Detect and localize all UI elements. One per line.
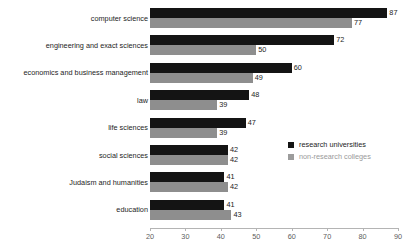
bar-research-universities — [150, 63, 292, 73]
bar-value-label: 42 — [230, 155, 238, 165]
legend-label-research-universities: research universities — [299, 140, 366, 150]
category-label: education — [2, 205, 148, 214]
bar-group: computer science8777 — [0, 8, 406, 28]
bar-value-label: 39 — [219, 100, 227, 110]
bar-non-research-colleges — [150, 100, 217, 110]
bar-non-research-colleges — [150, 45, 256, 55]
bar-research-universities — [150, 172, 224, 182]
category-label: computer science — [2, 14, 148, 23]
bar-research-universities — [150, 200, 224, 210]
x-tick-mark — [256, 228, 257, 231]
x-tick-label: 80 — [359, 232, 367, 241]
bar-non-research-colleges — [150, 18, 352, 28]
bar-research-universities — [150, 90, 249, 100]
bar-value-label: 41 — [226, 200, 234, 210]
bar-value-label: 77 — [354, 18, 362, 28]
legend-swatch-icon-research-universities — [288, 142, 294, 148]
category-label: law — [2, 96, 148, 105]
x-axis-line — [150, 228, 398, 229]
x-tick-mark — [185, 228, 186, 231]
bar-value-label: 47 — [248, 118, 256, 128]
bar-non-research-colleges — [150, 128, 217, 138]
x-tick-label: 70 — [323, 232, 331, 241]
bar-value-label: 87 — [389, 8, 397, 18]
x-tick-label: 30 — [181, 232, 189, 241]
category-label: social sciences — [2, 151, 148, 160]
category-label: economics and business management — [2, 68, 148, 77]
x-tick-label: 50 — [252, 232, 260, 241]
legend-swatch-icon-non-research-colleges — [288, 154, 294, 160]
bar-group: Judaism and humanities4142 — [0, 172, 406, 192]
bar-non-research-colleges — [150, 73, 253, 83]
bar-non-research-colleges — [150, 182, 228, 192]
bar-value-label: 39 — [219, 128, 227, 138]
bar-group: engineering and exact sciences7250 — [0, 35, 406, 55]
x-tick-mark — [150, 228, 151, 231]
bar-group: life sciences4739 — [0, 118, 406, 138]
x-tick-mark — [327, 228, 328, 231]
bar-research-universities — [150, 145, 228, 155]
x-tick-mark — [363, 228, 364, 231]
bar-value-label: 72 — [336, 35, 344, 45]
bar-research-universities — [150, 35, 334, 45]
bar-value-label: 48 — [251, 90, 259, 100]
x-tick-label: 40 — [217, 232, 225, 241]
x-tick-label: 60 — [288, 232, 296, 241]
legend-label-non-research-colleges: non-research colleges — [299, 152, 371, 162]
bar-research-universities — [150, 8, 387, 18]
x-tick-mark — [221, 228, 222, 231]
bar-non-research-colleges — [150, 155, 228, 165]
bar-group: education4143 — [0, 200, 406, 220]
x-tick-label: 90 — [394, 232, 402, 241]
bar-value-label: 49 — [255, 73, 263, 83]
bar-value-label: 42 — [230, 145, 238, 155]
category-label: life sciences — [2, 123, 148, 132]
bar-value-label: 42 — [230, 182, 238, 192]
category-label: engineering and exact sciences — [2, 41, 148, 50]
bar-group: economics and business management6049 — [0, 63, 406, 83]
bar-value-label: 50 — [258, 45, 266, 55]
plot-area: computer science8777engineering and exac… — [0, 0, 406, 246]
x-tick-mark — [292, 228, 293, 231]
bar-research-universities — [150, 118, 246, 128]
bar-value-label: 43 — [233, 210, 241, 220]
bar-value-label: 60 — [294, 63, 302, 73]
x-tick-label: 20 — [146, 232, 154, 241]
bar-non-research-colleges — [150, 210, 231, 220]
x-tick-mark — [398, 228, 399, 231]
bar-group: law4839 — [0, 90, 406, 110]
category-label: Judaism and humanities — [2, 178, 148, 187]
bar-chart: computer science8777engineering and exac… — [0, 0, 406, 246]
bar-value-label: 41 — [226, 172, 234, 182]
